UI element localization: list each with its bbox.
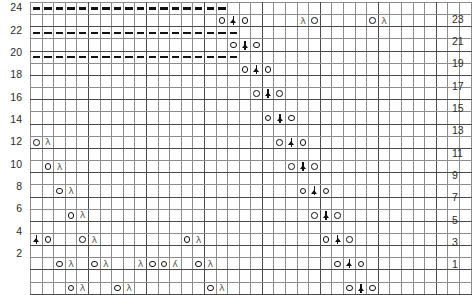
chart-cell-empty	[332, 185, 344, 197]
chart-cell-yo	[332, 209, 344, 221]
chart-cell-empty	[413, 39, 425, 51]
chart-cell-empty	[436, 88, 448, 100]
chart-cell-empty	[123, 173, 135, 185]
chart-cell-empty	[54, 100, 66, 112]
chart-cell-empty	[402, 75, 414, 87]
chart-cell-dec_right	[77, 282, 89, 294]
chart-cell-empty	[204, 246, 216, 258]
yo-icon	[332, 210, 343, 221]
chart-cell-empty	[204, 197, 216, 209]
chart-cell-empty	[77, 258, 89, 270]
chart-cell-empty	[88, 124, 100, 136]
chart-cell-empty	[204, 124, 216, 136]
chart-cell-empty	[262, 221, 274, 233]
chart-cell-empty	[413, 246, 425, 258]
chart-cell-empty	[100, 136, 112, 148]
chart-cell-empty	[88, 63, 100, 75]
chart-cell-empty	[378, 258, 390, 270]
chart-cell-empty	[309, 51, 321, 63]
chart-cell-empty	[413, 63, 425, 75]
dash-icon	[77, 3, 88, 14]
chart-cell-empty	[31, 209, 43, 221]
chart-cell-empty	[100, 246, 112, 258]
chart-cell-empty	[112, 173, 124, 185]
dash-icon	[31, 52, 42, 63]
chart-cell-empty	[355, 75, 367, 87]
chart-cell-empty	[181, 136, 193, 148]
chart-row	[31, 173, 472, 185]
chart-cell-empty	[344, 185, 356, 197]
chart-cell-empty	[216, 63, 228, 75]
cdd-icon	[228, 15, 239, 26]
chart-cell-empty	[436, 185, 448, 197]
chart-cell-empty	[239, 3, 251, 15]
chart-cell-empty	[286, 282, 298, 294]
yo-icon	[367, 15, 378, 26]
chart-cell-empty	[436, 282, 448, 294]
chart-cell-empty	[54, 15, 66, 27]
chart-cell-empty	[274, 75, 286, 87]
cdd-icon	[321, 210, 332, 221]
chart-cell-empty	[390, 27, 402, 39]
dec-right-icon	[77, 210, 88, 221]
chart-cell-empty	[65, 148, 77, 160]
chart-cell-empty	[274, 148, 286, 160]
chart-cell-empty	[216, 246, 228, 258]
chart-cell-empty	[332, 173, 344, 185]
chart-cell-empty	[355, 185, 367, 197]
chart-cell-empty	[216, 209, 228, 221]
chart-cell-dash	[88, 27, 100, 39]
chart-cell-dash	[204, 51, 216, 63]
chart-cell-empty	[390, 209, 402, 221]
dash-icon	[112, 3, 123, 14]
dash-icon	[54, 52, 65, 63]
chart-cell-empty	[367, 185, 379, 197]
chart-cell-yo	[344, 233, 356, 245]
chart-cell-empty	[344, 39, 356, 51]
chart-row	[31, 233, 472, 245]
chart-cell-empty	[31, 124, 43, 136]
yo-icon	[274, 137, 285, 148]
chart-cell-empty	[297, 63, 309, 75]
chart-cell-empty	[158, 136, 170, 148]
chart-cell-empty	[309, 136, 321, 148]
chart-cell-empty	[436, 112, 448, 124]
chart-cell-empty	[193, 88, 205, 100]
chart-cell-empty	[436, 173, 448, 185]
chart-cell-empty	[251, 161, 263, 173]
chart-cell-empty	[274, 258, 286, 270]
chart-cell-empty	[262, 197, 274, 209]
chart-cell-empty	[228, 185, 240, 197]
chart-cell-empty	[402, 15, 414, 27]
chart-cell-empty	[158, 197, 170, 209]
chart-cell-empty	[309, 173, 321, 185]
chart-cell-empty	[402, 88, 414, 100]
chart-cell-empty	[286, 124, 298, 136]
chart-cell-dash	[181, 27, 193, 39]
chart-cell-empty	[436, 63, 448, 75]
chart-cell-dash	[54, 51, 66, 63]
chart-cell-empty	[204, 136, 216, 148]
chart-cell-empty	[286, 75, 298, 87]
chart-cell-empty	[77, 63, 89, 75]
dash-icon	[66, 52, 77, 63]
chart-cell-empty	[378, 246, 390, 258]
chart-cell-empty	[239, 258, 251, 270]
chart-cell-empty	[193, 246, 205, 258]
chart-cell-empty	[88, 282, 100, 294]
chart-cell-empty	[100, 124, 112, 136]
chart-cell-empty	[54, 246, 66, 258]
chart-cell-empty	[146, 15, 158, 27]
chart-row	[31, 221, 472, 233]
chart-cell-empty	[297, 173, 309, 185]
chart-cell-dash	[204, 27, 216, 39]
chart-cell-empty	[88, 185, 100, 197]
dec-right-icon	[101, 258, 112, 269]
chart-cell-empty	[158, 209, 170, 221]
chart-cell-empty	[344, 197, 356, 209]
chart-cell-empty	[320, 124, 332, 136]
row-number-23: 23	[452, 14, 464, 25]
chart-cell-dec_right	[123, 282, 135, 294]
chart-cell-empty	[309, 75, 321, 87]
chart-cell-empty	[228, 197, 240, 209]
